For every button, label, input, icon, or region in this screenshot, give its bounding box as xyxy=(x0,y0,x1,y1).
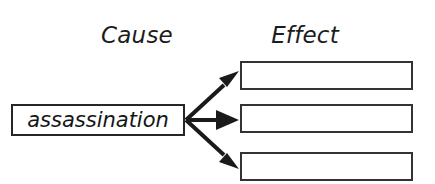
cause-box[interactable]: assassination xyxy=(11,104,185,136)
cause-box-label: assassination xyxy=(27,110,169,131)
arrow-to-effect-2-icon xyxy=(186,110,239,130)
arrow-to-effect-1-icon xyxy=(186,71,239,120)
effect-box-3[interactable] xyxy=(240,152,413,181)
column-heading-effect: Effect xyxy=(241,24,369,47)
cause-effect-diagram: Cause Effect assassination xyxy=(0,0,435,184)
effect-box-2[interactable] xyxy=(240,104,413,133)
effect-box-1[interactable] xyxy=(240,61,413,90)
column-heading-cause: Cause xyxy=(73,24,201,47)
arrow-to-effect-3-icon xyxy=(186,120,239,169)
